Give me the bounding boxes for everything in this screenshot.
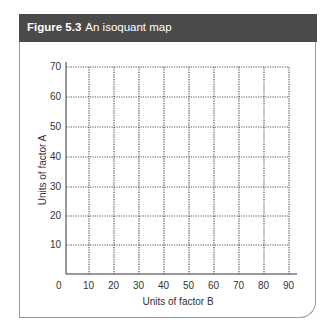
x-tick: 80 — [258, 280, 269, 291]
x-tick: 30 — [133, 280, 144, 291]
y-tick: 50 — [50, 121, 61, 132]
y-tick: 70 — [50, 61, 61, 72]
y-tick: 10 — [50, 239, 61, 250]
x-tick: 20 — [108, 280, 119, 291]
x-axis-label: Units of factor B — [142, 296, 213, 307]
x-tick: 50 — [183, 280, 194, 291]
x-tick: 90 — [283, 280, 294, 291]
x-tick: 70 — [233, 280, 244, 291]
y-axis-label: Units of factor A — [37, 135, 48, 206]
y-tick: 30 — [50, 181, 61, 192]
origin-label: 0 — [56, 280, 62, 291]
axes — [66, 62, 297, 274]
y-tick: 20 — [50, 210, 61, 221]
y-tick: 40 — [50, 151, 61, 162]
grid-lines — [66, 67, 289, 274]
y-tick: 60 — [50, 91, 61, 102]
x-tick: 60 — [208, 280, 219, 291]
x-tick: 10 — [83, 280, 94, 291]
x-tick: 40 — [158, 280, 169, 291]
